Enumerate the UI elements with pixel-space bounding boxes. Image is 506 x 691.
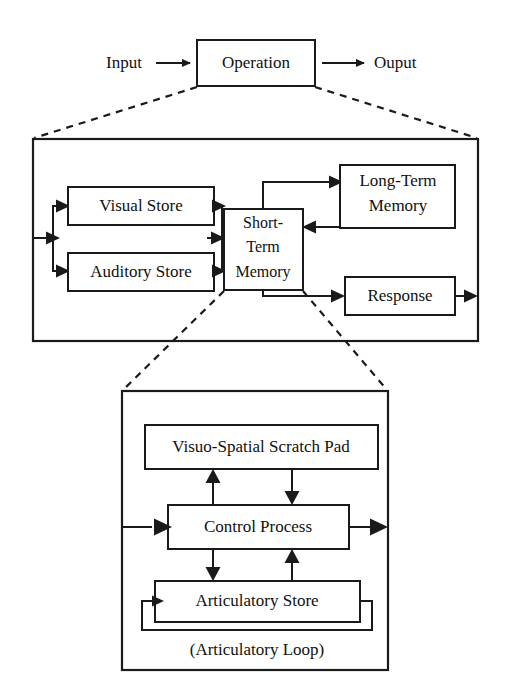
stm-to-response-arrowhead [331,290,345,303]
control-process-label: Control Process [204,517,312,536]
long-term-memory-label-line1: Long-Term [359,171,436,190]
articulatory-to-control-arrowhead [285,549,300,563]
articulatory-loop-caption: (Articulatory Loop) [190,640,325,659]
middle-level-group: Visual Store Auditory Store Short- Term … [33,139,478,341]
visuo-spatial-scratch-pad-label: Visuo-Spatial Scratch Pad [172,437,350,456]
input-label: Input [106,53,142,72]
response-out-arrowhead [464,290,478,303]
dashed-expansion-right-top [315,87,477,138]
output-label: Ouput [374,53,417,72]
dashed-expansion-left-top [34,87,197,138]
short-term-memory-label-line1: Short- [243,214,283,231]
stm-to-ltm-line [263,182,333,209]
ltm-to-stm-arrowhead [302,221,316,234]
operation-label: Operation [222,53,290,72]
bottom-level-group: Visuo-Spatial Scratch Pad Control Proces… [122,391,388,670]
control-to-scratchpad-arrowhead [206,469,221,483]
response-label: Response [367,286,432,305]
scratchpad-to-control-arrowhead [285,491,300,505]
control-to-articulatory-arrowhead [206,567,221,581]
diagram-canvas: Input Operation Ouput Visual Store [0,0,506,691]
articulatory-store-label: Articulatory Store [195,591,318,610]
short-term-memory-label-line2: Term [246,238,280,255]
short-term-memory-label-line3: Memory [235,263,290,281]
top-level-group: Input Operation Ouput [106,40,417,86]
auditory-store-label: Auditory Store [90,262,192,281]
visual-store-label: Visual Store [99,196,183,215]
long-term-memory-label-line2: Memory [369,196,428,215]
control-to-container-right-arrowhead [370,519,388,536]
memory-model-diagram: Input Operation Ouput Visual Store [0,0,506,691]
expansion-lines-top [34,87,477,138]
